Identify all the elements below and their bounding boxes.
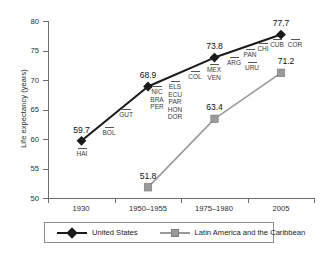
annotation-label-dor: DOR [168,113,182,120]
legend-marker-square-icon [160,227,190,239]
country-annotation-uru: URU [240,62,264,71]
legend-label-latin-america: Latin America and the Caribbean [195,228,306,237]
value-label-lac-1975-1980: 63.4 [195,102,235,112]
legend-item-united-states[interactable]: United States [57,227,138,239]
value-label-us-1950-1955: 68.9 [128,70,168,80]
annotation-tick-uru [248,62,257,63]
marker-latin-america-1975-1980 [211,115,218,122]
annotation-tick-gut [122,109,131,110]
country-annotation-hai: HAI [68,148,96,157]
annotation-label-hon: HON [168,106,182,113]
legend-marker-diamond-icon [57,227,87,239]
annotation-tick-col [191,71,200,72]
annotation-label-mex: MEX [207,66,221,73]
country-annotation-dor: DOR [164,113,186,121]
annotation-label-els: ELS [169,83,181,90]
country-annotation-ecu: ECU [164,91,186,99]
annotation-label-hai: HAI [77,150,88,157]
country-annotation-gut: GUT [112,109,140,118]
value-label-us-1975-1980: 73.8 [195,41,235,51]
annotation-tick-cor [291,39,300,40]
annotation-label-ecu: ECU [168,91,182,98]
marker-latin-america-2005 [277,69,284,76]
annotation-tick-mex [210,64,219,65]
country-annotation-cor: COR [283,39,307,48]
legend-label-united-states: United States [92,228,138,237]
country-annotation-par: PAR [164,98,186,106]
annotation-tick-els [171,81,180,82]
annotation-tick-nic [153,86,162,87]
country-annotation-els: ELS [164,81,186,91]
annotation-label-col: COL [188,73,201,80]
marker-united-states-1975-1980 [210,53,220,63]
annotation-label-arg: ARG [227,59,241,66]
annotation-label-nic: NIC [151,88,162,95]
marker-latin-america-1950-1955 [144,184,151,191]
country-annotation-group-els-ecu-par-hon-dor: ELS ECU PAR HON DOR [164,81,186,121]
annotation-label-cor: COR [288,41,302,48]
annotation-label-gut: GUT [119,111,133,118]
value-label-us-2005: 77.7 [261,18,301,28]
annotation-label-par: PAR [169,98,182,105]
annotation-tick-bol [105,127,114,128]
annotation-tick-cub [273,39,282,40]
chart-legend: United States Latin America and the Cari… [44,222,274,243]
country-annotation-bol: BOL [95,127,123,136]
legend-item-latin-america[interactable]: Latin America and the Caribbean [160,227,306,239]
annotation-label-per: PER [150,103,163,110]
country-annotation-hon: HON [164,106,186,114]
country-annotation-group-mex-ven: MEX VEN [203,64,225,81]
annotation-label-cub: CUB [270,41,284,48]
annotation-tick-hai [78,148,87,149]
value-label-lac-1950-1955: 51.8 [128,171,168,181]
annotation-label-bol: BOL [102,129,115,136]
annotation-label-bra: BRA [150,96,163,103]
value-label-lac-2005: 71.2 [266,56,306,66]
life-expectancy-chart: Life expectancy (years) 80 75 70 65 60 5… [0,0,321,253]
country-annotation-ven: VEN [203,74,225,82]
annotation-label-ven: VEN [207,74,220,81]
series-plot-area [0,0,321,253]
annotation-label-uru: URU [245,64,259,71]
